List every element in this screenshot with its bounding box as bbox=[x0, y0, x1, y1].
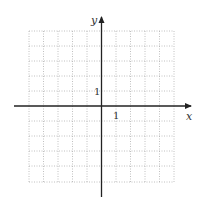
coordinate-plane: y x 1 1 bbox=[0, 0, 205, 207]
x-tick-label: 1 bbox=[113, 110, 119, 121]
y-tick-label: 1 bbox=[94, 86, 100, 97]
y-axis-label: y bbox=[90, 14, 98, 27]
x-axis-label: x bbox=[186, 110, 193, 123]
